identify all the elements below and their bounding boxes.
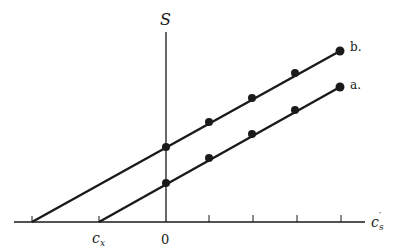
svg-text:x: x (100, 238, 105, 248)
line-a-label: a. (350, 78, 361, 92)
y-axis-label: S (160, 10, 171, 29)
svg-text:c: c (92, 230, 100, 246)
line-a (99, 87, 340, 222)
x-ticks (32, 215, 341, 222)
standard-addition-diagram: S b. a. 0 c x c s ′ (0, 0, 393, 252)
svg-text:s: s (379, 222, 384, 232)
intercept-label: c x (92, 230, 105, 248)
svg-text:c: c (371, 214, 379, 230)
x-axis-label: c s ′ (371, 210, 384, 232)
svg-text:′: ′ (379, 210, 382, 221)
line-b-label: b. (350, 40, 362, 54)
origin-label: 0 (161, 232, 169, 247)
